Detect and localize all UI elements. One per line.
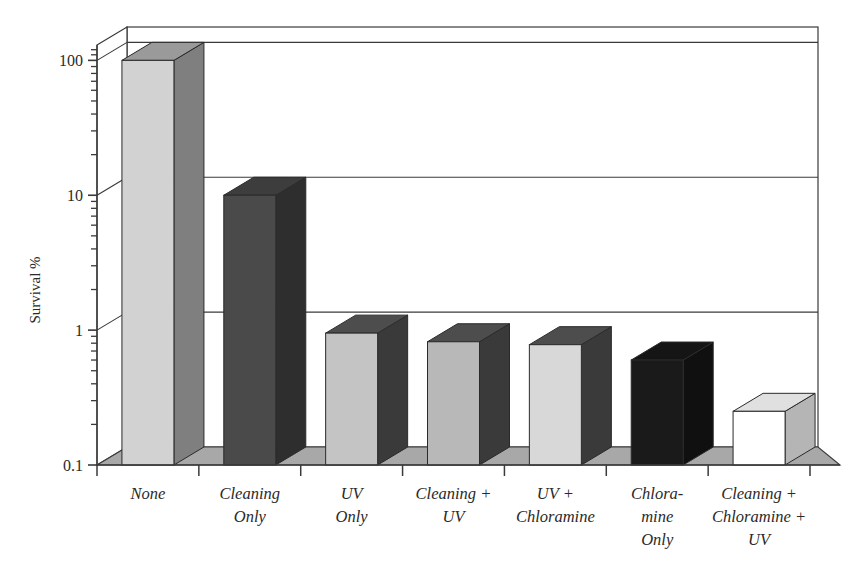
bar-side-face xyxy=(581,327,611,465)
x-tick-label: UV + xyxy=(537,484,574,503)
bar-2 xyxy=(224,177,306,465)
y-tick-label: 100 xyxy=(59,52,83,69)
y-axis-title-text: Survival % xyxy=(27,256,43,323)
bar-4 xyxy=(428,324,510,465)
x-tick-label: Chlora- xyxy=(631,484,683,503)
bar-3 xyxy=(326,315,408,465)
x-tick-label: Chloramine xyxy=(516,507,595,526)
x-tick-label: mine xyxy=(641,507,673,526)
bar-side-face xyxy=(480,324,510,465)
x-tick-label: Cleaning + xyxy=(416,484,492,503)
x-tick-label: Cleaning + xyxy=(721,484,797,503)
bar-front-face xyxy=(326,333,378,465)
x-tick-label: Only xyxy=(336,507,369,526)
chart-figure: 0.1110100 NoneCleaningOnlyUVOnlyCleaning… xyxy=(0,0,860,567)
x-tick-label: Cleaning xyxy=(220,484,281,503)
bar-side-face xyxy=(378,315,408,465)
x-tick-label: Chloramine + xyxy=(712,507,806,526)
x-tick-label: UV xyxy=(341,484,365,503)
bar-5 xyxy=(529,327,611,465)
bar-1 xyxy=(122,42,204,465)
x-tick-label: Only xyxy=(234,507,267,526)
survival-bar-chart: 0.1110100 NoneCleaningOnlyUVOnlyCleaning… xyxy=(0,0,860,567)
x-tick-label: None xyxy=(130,484,166,503)
bar-side-face xyxy=(683,342,713,465)
bar-front-face xyxy=(733,411,785,465)
bar-front-face xyxy=(631,360,683,465)
bar-side-face xyxy=(174,42,204,465)
y-tick-label: 0.1 xyxy=(63,457,83,474)
bar-front-face xyxy=(224,195,276,465)
bar-6 xyxy=(631,342,713,465)
x-tick-label: UV xyxy=(443,507,467,526)
bar-side-face xyxy=(276,177,306,465)
bar-front-face xyxy=(122,60,174,465)
y-tick-label: 10 xyxy=(67,187,83,204)
y-tick-label: 1 xyxy=(75,322,83,339)
bar-front-face xyxy=(428,342,480,465)
y-axis-title: Survival % xyxy=(27,256,43,323)
x-tick-label: UV xyxy=(748,530,772,549)
x-tick-label: Only xyxy=(641,530,674,549)
bar-front-face xyxy=(529,345,581,465)
bar-7 xyxy=(733,393,815,465)
